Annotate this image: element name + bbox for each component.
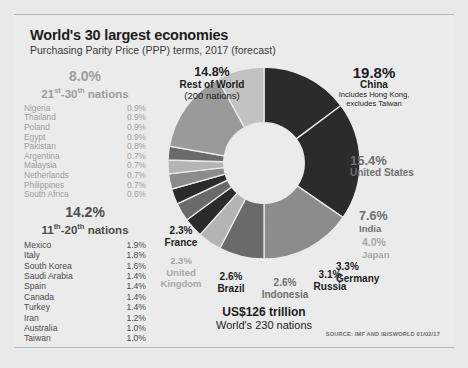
list-item-value: 1.6% xyxy=(120,261,146,271)
list-item-name: Taiwan xyxy=(24,333,120,343)
list-item: Australia1.0% xyxy=(24,323,146,333)
list-item: South Africa0.6% xyxy=(24,190,146,200)
callout-china: 19.8% China Includes Hong Kong, excludes… xyxy=(314,67,434,108)
list-item-name: Mexico xyxy=(24,240,120,250)
list-item-value: 1.9% xyxy=(120,240,146,250)
group-21st-30th-range: 21st-30th nations xyxy=(24,84,146,101)
list-item: Spain1.4% xyxy=(24,281,146,291)
group-21st-30th-list: Nigeria0.9%Thailand0.9%Poland0.9%Egypt0.… xyxy=(24,104,146,200)
list-item-name: Canada xyxy=(24,292,120,302)
callout-china-name: China xyxy=(314,79,434,91)
callout-france-name: France xyxy=(150,237,212,249)
callout-china-sub1: Includes Hong Kong, xyxy=(314,90,434,99)
source-note: SOURCE: IMF AND IBISWORLD 01/02/17 xyxy=(326,331,440,337)
list-item: Mexico1.9% xyxy=(24,240,146,250)
list-item-value: 1.0% xyxy=(120,333,146,343)
callout-rest-of-world: 14.8% Rest of World (200 nations) xyxy=(160,67,264,102)
callout-brazil: 2.6% Brazil xyxy=(204,271,258,294)
callout-indonesia-percent: 2.6% xyxy=(252,277,318,289)
list-item-value: 1.4% xyxy=(120,281,146,291)
callout-india-percent: 7.6% xyxy=(359,211,439,223)
list-item-value: 1.4% xyxy=(120,271,146,281)
callout-china-percent: 19.8% xyxy=(314,67,434,79)
list-item-value: 1.8% xyxy=(120,250,146,260)
list-item-value: 1.0% xyxy=(120,323,146,333)
list-item: Canada1.4% xyxy=(24,292,146,302)
group-11th-20th-list: Mexico1.9%Italy1.8%South Korea1.6%Saudi … xyxy=(24,240,146,344)
list-item: Taiwan1.0% xyxy=(24,333,146,343)
list-item: Saudi Arabia1.4% xyxy=(24,271,146,281)
group-11th-20th: 14.2% 11th-20th nations Mexico1.9%Italy1… xyxy=(24,205,146,344)
callout-china-sub2: excludes Taiwan xyxy=(314,99,434,108)
list-item-name: South Africa xyxy=(24,190,120,200)
callout-united-kingdom-percent: 2.3% xyxy=(150,255,212,267)
list-item-value: 1.2% xyxy=(120,313,146,323)
callout-japan: 4.0% Japan xyxy=(362,237,432,260)
callout-rest-of-world-sub: (200 nations) xyxy=(160,90,264,102)
page-title: World's 30 largest economies xyxy=(30,27,228,43)
callout-rest-of-world-percent: 14.8% xyxy=(160,67,264,79)
group-11th-20th-percent: 14.2% xyxy=(24,205,146,220)
list-item: Italy1.8% xyxy=(24,250,146,260)
callout-indonesia: 2.6% Indonesia xyxy=(252,277,318,300)
callout-brazil-percent: 2.6% xyxy=(204,271,258,283)
callout-indonesia-name: Indonesia xyxy=(252,289,318,301)
list-item-name: Italy xyxy=(24,250,120,260)
list-item-value: 1.4% xyxy=(120,292,146,302)
list-item: Iran1.2% xyxy=(24,313,146,323)
callout-united-kingdom: 2.3% United Kingdom xyxy=(150,255,212,290)
callout-united-states: 15.4% United States xyxy=(350,155,454,178)
group-21st-30th: 8.0% 21st-30th nations Nigeria0.9%Thaila… xyxy=(24,69,146,200)
list-item: South Korea1.6% xyxy=(24,261,146,271)
callout-united-kingdom-name1: United xyxy=(150,267,212,279)
callout-india: 7.6% India xyxy=(359,211,439,234)
group-11th-20th-range: 11th-20th nations xyxy=(24,220,146,237)
callout-japan-percent: 4.0% xyxy=(362,237,432,249)
list-item-name: Turkey xyxy=(24,302,120,312)
group-21st-30th-percent: 8.0% xyxy=(24,69,146,84)
total-block: US$126 trillion World's 230 nations xyxy=(164,305,364,331)
callout-france: 2.3% France xyxy=(150,225,212,248)
total-amount: US$126 trillion xyxy=(164,305,364,319)
total-caption: World's 230 nations xyxy=(164,319,364,331)
callout-brazil-name: Brazil xyxy=(204,283,258,295)
list-item-name: Iran xyxy=(24,313,120,323)
callout-india-name: India xyxy=(359,223,439,235)
infographic-card: World's 30 largest economies Purchasing … xyxy=(14,14,454,348)
group-11th-20th-heading: 14.2% 11th-20th nations xyxy=(24,205,146,237)
list-item-name: South Korea xyxy=(24,261,120,271)
callout-united-states-name: United States xyxy=(350,167,454,179)
callout-united-states-percent: 15.4% xyxy=(350,155,454,167)
callout-united-kingdom-name2: Kingdom xyxy=(150,278,212,290)
callout-france-percent: 2.3% xyxy=(150,225,212,237)
list-item: Turkey1.4% xyxy=(24,302,146,312)
group-21st-30th-heading: 8.0% 21st-30th nations xyxy=(24,69,146,101)
list-item-value: 1.4% xyxy=(120,302,146,312)
list-item-value: 0.6% xyxy=(120,190,146,200)
list-item-name: Saudi Arabia xyxy=(24,271,120,281)
callout-japan-name: Japan xyxy=(362,249,432,261)
list-item-name: Spain xyxy=(24,281,120,291)
page-subtitle: Purchasing Parity Price (PPP) terms, 201… xyxy=(30,44,276,56)
list-item-name: Australia xyxy=(24,323,120,333)
callout-rest-of-world-name: Rest of World xyxy=(160,79,264,91)
